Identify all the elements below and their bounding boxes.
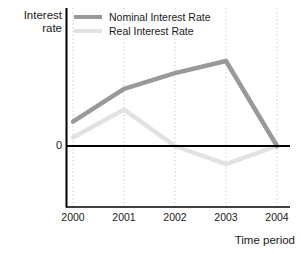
x-axis-tick-label-2000: 2000 (61, 211, 84, 223)
legend-item-nominal: Nominal Interest Rate (74, 10, 211, 24)
y-axis-title-line-2: rate (42, 22, 62, 34)
x-axis-tick-label-2004: 2004 (265, 211, 288, 223)
x-axis-tick-label-2001: 2001 (112, 211, 135, 223)
chart-legend: Nominal Interest Rate Real Interest Rate (74, 10, 211, 38)
x-axis-tick-label-2002: 2002 (163, 211, 186, 223)
y-axis-title: Interest rate (4, 9, 62, 35)
series-line-real-interest-rate (73, 110, 277, 165)
legend-swatch-real-icon (74, 29, 102, 33)
legend-swatch-nominal-icon (74, 15, 102, 19)
y-axis-tick-label-zero: 0 (50, 139, 62, 151)
legend-label-nominal: Nominal Interest Rate (109, 11, 211, 23)
chart-plot-area (0, 0, 301, 254)
x-axis-tick-label-2003: 2003 (214, 211, 237, 223)
interest-rate-line-chart: Interest rate 0 Nominal Interest Rate Re… (0, 0, 301, 254)
y-axis-title-line-1: Interest (24, 9, 62, 21)
x-axis-title: Time period (235, 234, 295, 247)
legend-label-real: Real Interest Rate (109, 25, 194, 37)
legend-item-real: Real Interest Rate (74, 24, 211, 38)
